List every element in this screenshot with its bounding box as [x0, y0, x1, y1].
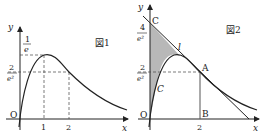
fig2-tick-2: 2 [197, 123, 202, 132]
fig2-frac-top-num: 4 [140, 23, 145, 32]
fig1-y-label: y [7, 22, 14, 32]
fig2-point-C: C [152, 16, 159, 26]
fig1-frac-top-den: e [24, 45, 29, 54]
fig2-frac-top-den: e² [137, 35, 144, 43]
fig2-line-label: l [178, 42, 181, 52]
fig1-frac-mid-num: 2 [9, 63, 14, 72]
fig1-tick-1: 1 [41, 123, 46, 132]
fig1-curve [19, 55, 127, 127]
diagram-canvas: y x O 1 e 2 e² 1 2 図1 y x O C 4 e² 2 e² … [0, 0, 261, 136]
fig1-title: 図1 [95, 38, 110, 48]
fig1-x-label: x [122, 123, 127, 133]
fig2-y-label: y [137, 2, 144, 12]
fig2-curve-label: C [157, 84, 164, 94]
fig2-frac-mid-den: e² [137, 75, 144, 83]
fig2-title: 図2 [226, 25, 241, 35]
fig1-origin: O [10, 110, 17, 120]
fig2-frac-mid-num: 2 [140, 63, 145, 72]
fig1-frac-mid-den: e² [7, 75, 14, 83]
figure-1: y x O 1 e 2 e² 1 2 図1 [6, 22, 128, 133]
fig2-origin: O [140, 110, 147, 120]
fig1-frac-top-num: 1 [25, 35, 30, 44]
fig2-point-A: A [201, 63, 209, 73]
fig1-tick-2: 2 [66, 123, 71, 132]
fig2-x-label: x [253, 123, 258, 133]
figure-2: y x O C 4 e² 2 e² l C A B 2 図2 [137, 2, 259, 133]
fig2-point-B: B [202, 109, 209, 119]
